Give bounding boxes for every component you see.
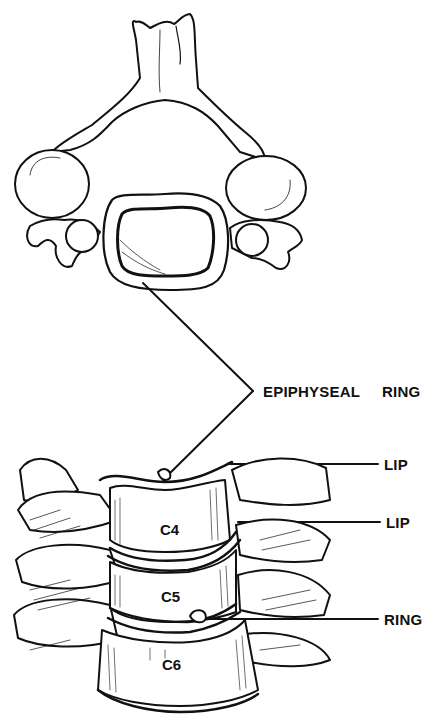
label-c6: C6 (162, 656, 181, 673)
epiphyseal-leader-top (143, 283, 253, 391)
label-epiphyseal: EPIPHYSEAL (263, 383, 360, 400)
vertebral-column (14, 458, 330, 712)
left-articular-facet (15, 150, 89, 218)
label-c4: C4 (160, 521, 179, 538)
label-lip-upper: LIP (384, 456, 408, 473)
right-transverse-foramen (236, 224, 268, 256)
label-ring-top: RING (382, 383, 420, 400)
ring-marker (190, 610, 206, 622)
vertebral-body-center (118, 207, 214, 276)
right-articular-facet (226, 156, 306, 220)
label-c5: C5 (161, 588, 180, 605)
left-transverse-foramen (66, 220, 98, 252)
vertebra-illustration (0, 0, 439, 726)
label-ring-bottom: RING (384, 611, 422, 628)
label-lip-lower: LIP (386, 514, 410, 531)
top-vertebra (15, 14, 306, 290)
spinous-process (52, 14, 265, 160)
leader-lines (143, 283, 380, 619)
c4-body (110, 480, 230, 552)
